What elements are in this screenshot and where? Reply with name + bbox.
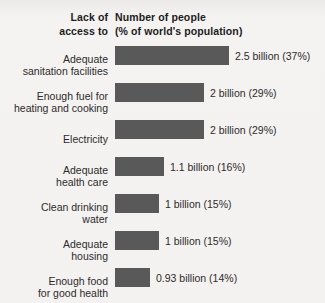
bar-rect	[115, 83, 204, 102]
bar-value-label: 2.5 billion (37%)	[235, 47, 310, 66]
bar-row: Adequate health care1.1 billion (16%)	[0, 157, 325, 194]
bar-value-label: 2 billion (29%)	[210, 84, 277, 103]
bar-row-label: Enough fuel for heating and cooking	[0, 89, 108, 114]
bar-rect	[115, 157, 164, 176]
bar-value-label: 1 billion (15%)	[165, 232, 232, 251]
bar-row-label: Adequate housing	[0, 237, 108, 262]
bar-rect	[115, 194, 159, 213]
bar-value-label: 2 billion (29%)	[210, 121, 277, 140]
column-header-value-line2: (% of world's population)	[115, 25, 325, 39]
chart-header: Lack of access to Number of people (% of…	[0, 11, 325, 41]
bar-row: Enough fuel for heating and cooking2 bil…	[0, 83, 325, 120]
bar-rect	[115, 231, 159, 250]
bar-value-label: 1 billion (15%)	[165, 195, 232, 214]
bar-value-label: 0.93 billion (14%)	[156, 269, 237, 288]
bar-row: Electricity2 billion (29%)	[0, 120, 325, 157]
column-header-category-line2: access to	[0, 25, 108, 39]
bar-row-label: Adequate sanitation facilities	[0, 52, 108, 77]
bar-row: Clean drinking water1 billion (15%)	[0, 194, 325, 231]
column-header-category: Lack of access to	[0, 11, 108, 38]
column-header-value: Number of people (% of world's populatio…	[115, 11, 325, 38]
bar-row: Adequate housing1 billion (15%)	[0, 231, 325, 268]
column-header-category-line1: Lack of	[0, 11, 108, 25]
bar-row-label: Electricity	[0, 132, 108, 145]
bar-value-label: 1.1 billion (16%)	[170, 158, 245, 177]
bar-rows: Adequate sanitation facilities2.5 billio…	[0, 46, 325, 303]
bar-row: Enough food for good health0.93 billion …	[0, 268, 325, 303]
bar-row-label: Enough food for good health	[0, 274, 108, 299]
bar-row-label: Adequate health care	[0, 163, 108, 188]
bar-rect	[115, 120, 204, 139]
bar-rect	[115, 46, 229, 65]
bar-row: Adequate sanitation facilities2.5 billio…	[0, 46, 325, 83]
column-header-value-line1: Number of people	[115, 11, 325, 25]
bar-rect	[115, 268, 150, 287]
bar-row-label: Clean drinking water	[0, 200, 108, 225]
